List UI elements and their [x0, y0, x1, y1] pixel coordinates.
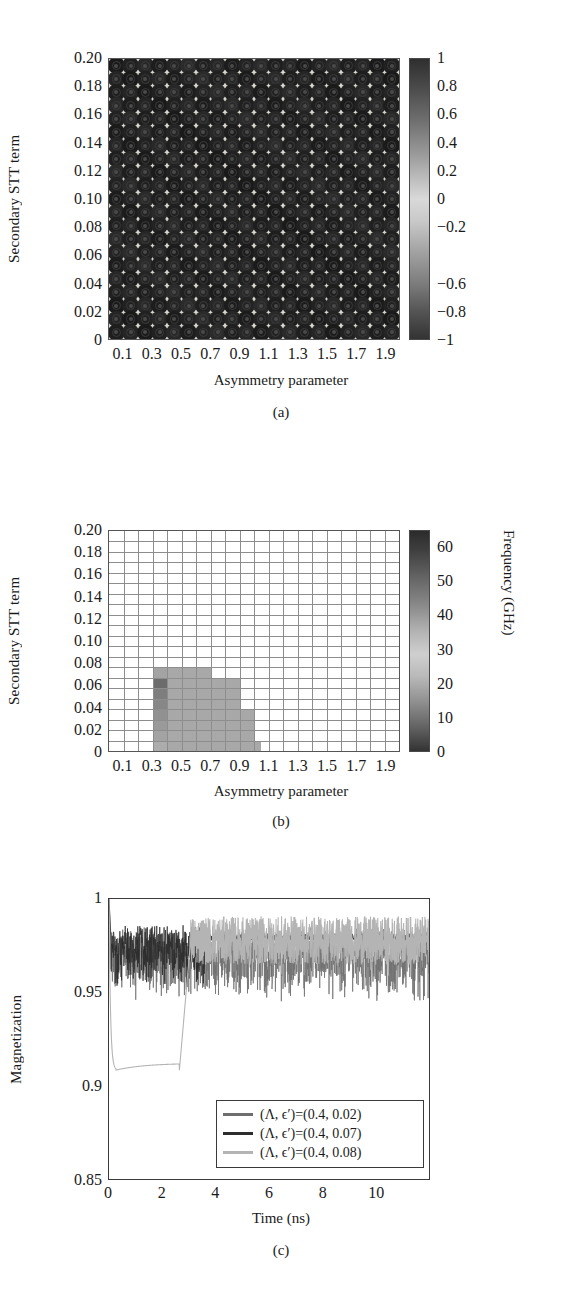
panel-b-colorbar-tick-label: 40 — [437, 606, 453, 624]
panel-b-colorbar-tick-label: 20 — [437, 675, 453, 693]
panel-b-colorbar-tick-label: 50 — [437, 572, 453, 590]
panel-a-x-ticks: 0.10.30.50.70.91.11.31.51.71.9 — [108, 345, 400, 367]
panel-a-colorbar-tick-label: 0.2 — [437, 162, 457, 180]
panel-a-x-tick-label: 0.1 — [113, 345, 133, 363]
panel-a-marker-field — [109, 59, 399, 339]
panel-c-legend-swatch — [223, 1113, 253, 1116]
panel-b-x-ticks: 0.10.30.50.70.91.11.31.51.71.9 — [108, 757, 400, 779]
panel-b-data-cell — [225, 678, 240, 751]
panel-b-colorbar-label: Frequency (GHz) — [500, 530, 517, 752]
panel-c-legend-label: (Λ, ϵ′)=(0.4, 0.08) — [260, 1145, 361, 1161]
panel-a-colorbar — [409, 58, 430, 340]
panel-b-data-cell — [153, 720, 168, 730]
panel-b-ylabel: Secondary STT term — [6, 530, 24, 752]
panel-a-y-tick-label: 0.08 — [30, 218, 102, 236]
panel-a-colorbar-tick-label: 0.6 — [437, 105, 457, 123]
panel-a-colorbar-tick-label: 0.8 — [437, 77, 457, 95]
panel-b-data-cell — [182, 667, 197, 751]
panel-b-data-cell — [196, 667, 211, 751]
panel-a-colorbar-tick-label: −0.6 — [437, 275, 466, 293]
panel-c-x-tick-label: 4 — [211, 1184, 219, 1202]
panel-b-x-tick-label: 1.3 — [288, 757, 308, 775]
panel-a-x-tick-label: 1.7 — [346, 345, 366, 363]
panel-b-y-tick-label: 0.20 — [30, 521, 102, 539]
panel-a-y-tick-label: 0.06 — [30, 246, 102, 264]
panel-b-data-cell — [153, 667, 168, 677]
panel-b-x-tick-label: 0.5 — [171, 757, 191, 775]
panel-b-xlabel: Asymmetry parameter — [0, 783, 562, 800]
panel-b-y-ticks: 0.200.180.160.140.120.100.080.060.040.02… — [30, 530, 102, 752]
panel-c-legend-entry: (Λ, ϵ′)=(0.4, 0.02) — [223, 1105, 417, 1124]
panel-b-x-tick-label: 0.9 — [229, 757, 249, 775]
panel-a-colorbar-ticks: 10.80.60.40.20−0.2−0.6−0.8−1 — [437, 58, 517, 340]
panel-b-x-tick-label: 1.1 — [259, 757, 279, 775]
panel-a-colorbar-tick-label: 0 — [437, 190, 445, 208]
panel-a-heatmap — [108, 58, 400, 340]
panel-b-y-tick-label: 0.06 — [30, 676, 102, 694]
panel-c-caption: (c) — [0, 1242, 562, 1259]
panel-b-cell-field — [109, 531, 399, 751]
panel-a-x-tick-label: 0.9 — [229, 345, 249, 363]
panel-c-x-tick-label: 10 — [368, 1184, 384, 1202]
panel-b-colorbar-tick-label: 10 — [437, 709, 453, 727]
panel-c-x-tick-label: 8 — [319, 1184, 327, 1202]
panel-c-legend-swatch — [223, 1132, 253, 1135]
panel-b-x-tick-label: 0.3 — [142, 757, 162, 775]
panel-b-caption: (b) — [0, 813, 562, 830]
panel-b-data-cell — [167, 667, 182, 751]
panel-a-y-tick-label: 0.14 — [30, 134, 102, 152]
panel-c-legend: (Λ, ϵ′)=(0.4, 0.02)(Λ, ϵ′)=(0.4, 0.07)(Λ… — [216, 1100, 424, 1168]
panel-c-legend-label: (Λ, ϵ′)=(0.4, 0.07) — [260, 1126, 361, 1142]
panel-c-legend-entry: (Λ, ϵ′)=(0.4, 0.08) — [223, 1143, 417, 1162]
panel-b-data-cell — [153, 699, 168, 709]
panel-b-colorbar-ticks: 6050403020100 — [437, 530, 497, 752]
panel-a-y-tick-label: 0.12 — [30, 162, 102, 180]
panel-c-legend-label: (Λ, ϵ′)=(0.4, 0.02) — [260, 1107, 361, 1123]
panel-a-x-tick-label: 1.5 — [317, 345, 337, 363]
panel-a-x-tick-label: 0.7 — [200, 345, 220, 363]
panel-b-data-cell — [153, 709, 168, 719]
panel-b-y-tick-label: 0.04 — [30, 699, 102, 717]
panel-b-data-cell — [153, 730, 168, 740]
panel-b: Secondary STT term 0.200.180.160.140.120… — [0, 480, 562, 850]
panel-b-x-tick-label: 1.7 — [346, 757, 366, 775]
panel-a-colorbar-tick-label: 0.4 — [437, 134, 457, 152]
panel-a-colorbar-tick-label: −1 — [437, 331, 454, 349]
panel-c-xlabel: Time (ns) — [0, 1210, 562, 1227]
panel-c-y-tick-label: 0.95 — [30, 983, 102, 1001]
panel-b-y-tick-label: 0.08 — [30, 654, 102, 672]
panel-c-y-ticks: 10.950.90.85 — [30, 898, 102, 1180]
panel-c-series-path — [109, 899, 429, 1070]
panel-c-y-tick-label: 0.9 — [30, 1077, 102, 1095]
panel-a-y-tick-label: 0 — [30, 331, 102, 349]
panel-b-y-tick-label: 0.12 — [30, 610, 102, 628]
panel-a-x-tick-label: 1.3 — [288, 345, 308, 363]
panel-a-y-tick-label: 0.18 — [30, 77, 102, 95]
panel-a-y-tick-label: 0.10 — [30, 190, 102, 208]
panel-b-y-tick-label: 0 — [30, 743, 102, 761]
panel-b-x-tick-label: 0.7 — [200, 757, 220, 775]
panel-c-legend-entry: (Λ, ϵ′)=(0.4, 0.07) — [223, 1124, 417, 1143]
panel-c-legend-swatch — [223, 1151, 253, 1154]
panel-a-ylabel: Secondary STT term — [6, 58, 24, 340]
panel-b-data-cell — [153, 741, 168, 751]
panel-c-y-tick-label: 1 — [30, 889, 102, 907]
panel-a-x-tick-label: 1.1 — [259, 345, 279, 363]
panel-a-x-tick-label: 0.3 — [142, 345, 162, 363]
panel-b-y-tick-label: 0.18 — [30, 543, 102, 561]
panel-a-colorbar-tick-label: −0.2 — [437, 218, 466, 236]
panel-b-colorbar-tick-label: 30 — [437, 641, 453, 659]
panel-c-x-ticks: 0246810 — [108, 1184, 430, 1206]
panel-a-x-tick-label: 0.5 — [171, 345, 191, 363]
panel-c-x-tick-label: 2 — [158, 1184, 166, 1202]
panel-b-y-tick-label: 0.14 — [30, 588, 102, 606]
panel-a-colorbar-tick-label: 1 — [437, 49, 445, 67]
panel-b-colorbar-tick-label: 0 — [437, 743, 445, 761]
panel-a-y-tick-label: 0.02 — [30, 303, 102, 321]
panel-b-x-tick-label: 0.1 — [113, 757, 133, 775]
panel-b-y-tick-label: 0.02 — [30, 721, 102, 739]
panel-b-x-tick-label: 1.5 — [317, 757, 337, 775]
panel-a-xlabel: Asymmetry parameter — [0, 372, 562, 389]
panel-c: Magnetization 10.950.90.85 (Λ, ϵ′)=(0.4,… — [0, 850, 562, 1303]
panel-b-y-tick-label: 0.16 — [30, 565, 102, 583]
